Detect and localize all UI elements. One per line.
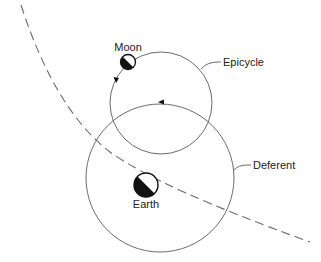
epicycle-label: Epicycle xyxy=(223,56,264,68)
deferent-label: Deferent xyxy=(253,159,295,171)
epicycle-diagram: Moon Earth Epicycle Deferent xyxy=(0,0,321,262)
moon-path-dashed xyxy=(21,5,310,242)
moon-label: Moon xyxy=(114,41,142,53)
deferent-circle xyxy=(86,104,234,252)
moon-icon xyxy=(121,55,136,70)
epicycle-leader-line xyxy=(201,62,221,69)
earth-label: Earth xyxy=(133,198,159,210)
earth-icon xyxy=(134,173,158,197)
deferent-leader-line xyxy=(234,165,251,170)
